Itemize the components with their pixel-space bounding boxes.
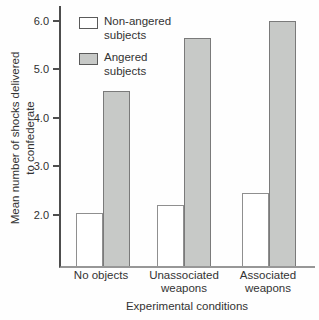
bar-non-angered-1 — [76, 213, 103, 267]
y-tick-label: 4.0 — [25, 112, 49, 124]
y-tick-mark — [53, 214, 61, 216]
y-tick-mark — [53, 117, 61, 119]
legend-item-angered: Angered subjects — [79, 51, 171, 78]
bar-angered-3 — [269, 21, 296, 266]
legend-item-non-angered: Non-angered subjects — [79, 15, 171, 42]
angered-swatch-icon — [79, 53, 98, 65]
legend-label-non-angered: Non-angered subjects — [104, 15, 171, 42]
y-axis-title-line2: to confederate — [23, 8, 38, 268]
y-tick-mark — [53, 20, 61, 22]
bar-non-angered-2 — [157, 205, 184, 266]
y-tick-label: 3.0 — [25, 160, 49, 172]
bar-angered-1 — [103, 91, 130, 266]
y-tick-label: 5.0 — [25, 63, 49, 75]
y-axis-title: Mean number of shocks delivered to confe… — [8, 8, 38, 268]
y-tick-label: 6.0 — [25, 15, 49, 27]
plot-area: 2.03.04.05.06.0 Non-angered subjects Ang… — [59, 6, 315, 268]
y-tick-label: 2.0 — [25, 209, 49, 221]
legend-label-angered: Angered subjects — [104, 51, 147, 78]
non-angered-swatch-icon — [79, 17, 98, 29]
bar-chart-figure: Mean number of shocks delivered to confe… — [0, 0, 319, 320]
legend: Non-angered subjects Angered subjects — [79, 15, 171, 87]
y-axis-title-line1: Mean number of shocks delivered — [8, 8, 23, 268]
y-tick-mark — [53, 165, 61, 167]
bar-non-angered-3 — [242, 193, 269, 266]
bar-angered-2 — [184, 38, 211, 266]
x-axis-title: Experimental conditions — [57, 300, 317, 312]
y-tick-mark — [53, 68, 61, 70]
x-category-label-3: Associated weapons — [203, 269, 319, 295]
